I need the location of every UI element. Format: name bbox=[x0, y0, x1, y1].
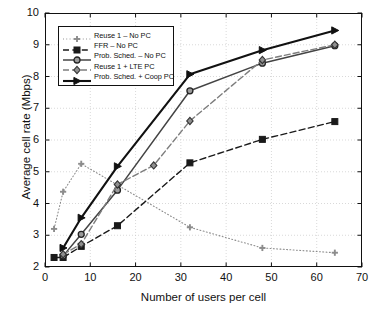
legend-symbol-circle-icon bbox=[62, 51, 92, 61]
data-point bbox=[187, 224, 193, 230]
x-tick-label: 30 bbox=[164, 271, 198, 283]
data-point bbox=[332, 250, 338, 256]
data-point bbox=[78, 231, 84, 237]
data-point bbox=[259, 136, 265, 142]
data-point bbox=[332, 27, 339, 34]
legend-symbol-diamond-icon bbox=[62, 61, 92, 71]
x-tick-label: 60 bbox=[300, 271, 334, 283]
data-point bbox=[60, 189, 66, 195]
data-point bbox=[187, 88, 193, 94]
legend-item-0: Reuse 1 – No PC bbox=[62, 30, 169, 40]
legend-symbol-triangle-right-icon bbox=[62, 72, 92, 82]
series-0 bbox=[51, 161, 338, 256]
data-point bbox=[259, 245, 265, 251]
figure: Average cell rate (Mbps) 234567891001020… bbox=[0, 0, 378, 315]
legend-label: Reuse 1 – No PC bbox=[92, 31, 151, 40]
data-point bbox=[51, 254, 57, 260]
legend-symbol-square-icon bbox=[62, 41, 92, 51]
legend-label: Prob. Sched. – No PC bbox=[92, 51, 166, 60]
legend-item-1: FFR – No PC bbox=[62, 40, 169, 50]
x-tick-label: 70 bbox=[345, 271, 378, 283]
x-tick-label: 10 bbox=[73, 271, 107, 283]
x-tick-label: 40 bbox=[209, 271, 243, 283]
y-tick-label: 3 bbox=[5, 228, 39, 240]
legend: Reuse 1 – No PCFFR – No PCProb. Sched. –… bbox=[58, 26, 174, 86]
y-tick-label: 4 bbox=[5, 197, 39, 209]
legend-label: Reuse 1 + LTE PC bbox=[92, 62, 154, 71]
x-tick-label: 50 bbox=[254, 271, 288, 283]
legend-item-3: Reuse 1 + LTE PC bbox=[62, 61, 169, 71]
legend-label: Prob. Sched. + Coop PC bbox=[92, 72, 174, 81]
data-point bbox=[259, 47, 266, 54]
x-axis-label: Number of users per cell bbox=[45, 291, 362, 303]
y-tick-label: 9 bbox=[5, 38, 39, 50]
y-tick-label: 6 bbox=[5, 133, 39, 145]
data-point bbox=[114, 223, 120, 229]
legend-label: FFR – No PC bbox=[92, 41, 138, 50]
x-tick-label: 0 bbox=[28, 271, 62, 283]
y-tick-label: 5 bbox=[5, 165, 39, 177]
y-tick-label: 8 bbox=[5, 70, 39, 82]
data-point bbox=[187, 160, 193, 166]
data-point bbox=[74, 77, 81, 84]
legend-symbol-plus-icon bbox=[62, 30, 92, 40]
legend-item-4: Prob. Sched. + Coop PC bbox=[62, 72, 169, 82]
data-point bbox=[78, 161, 84, 167]
data-point bbox=[51, 226, 57, 232]
x-tick-label: 20 bbox=[119, 271, 153, 283]
legend-item-2: Prob. Sched. – No PC bbox=[62, 51, 169, 61]
y-tick-label: 10 bbox=[5, 6, 39, 18]
y-tick-label: 7 bbox=[5, 101, 39, 113]
chart-canvas bbox=[0, 0, 378, 315]
data-point bbox=[332, 119, 338, 125]
